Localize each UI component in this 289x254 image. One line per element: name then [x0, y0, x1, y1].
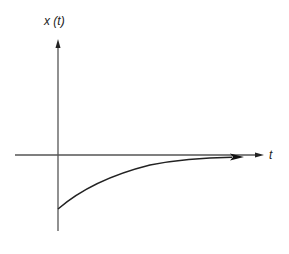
plot-graphic: [0, 0, 289, 254]
signal-plot: x (t) t: [0, 0, 289, 254]
y-axis-label: x (t): [44, 15, 65, 27]
x-axis-arrowhead-icon: [255, 153, 264, 158]
y-axis-arrowhead-icon: [56, 39, 61, 48]
signal-curve: [58, 157, 232, 209]
x-axis-label: t: [269, 149, 272, 161]
